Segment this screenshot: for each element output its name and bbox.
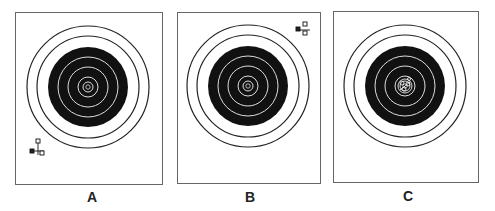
panel-b: [178, 13, 321, 184]
panel-c: [334, 12, 479, 183]
panel-label-a: A: [87, 189, 97, 205]
panel-a: [16, 13, 163, 185]
panel-label-c: C: [403, 188, 413, 204]
target-figure: [0, 0, 495, 211]
panel-label-b: B: [245, 189, 255, 205]
